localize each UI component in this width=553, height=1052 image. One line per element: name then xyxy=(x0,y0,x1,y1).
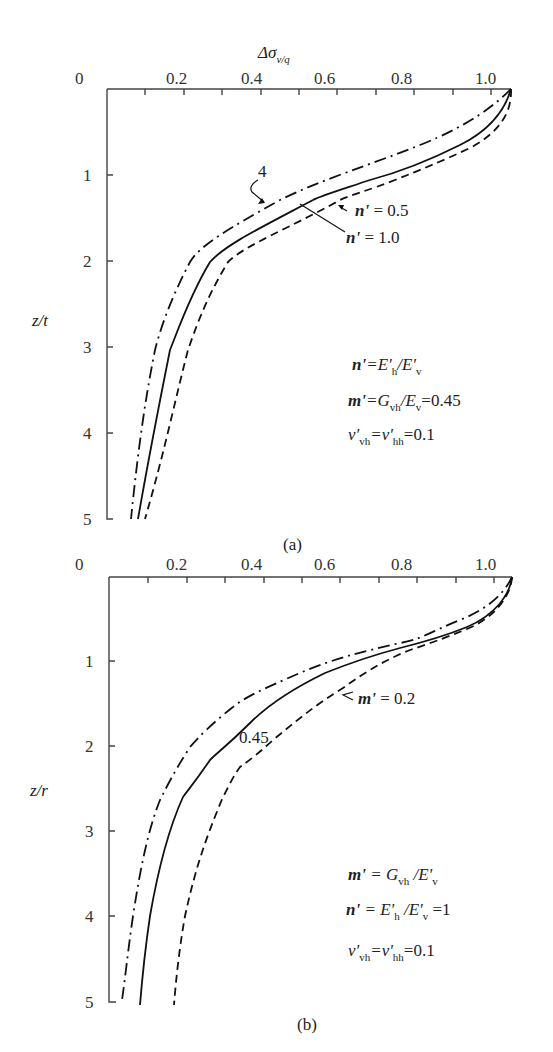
axes-b xyxy=(109,577,512,1002)
y-tick-2: 2 xyxy=(85,737,94,756)
x-tick-0.8: 0.8 xyxy=(391,69,412,88)
panel-a: Δσv/q 0 0.2 0.4 0.6 0.8 1.0 1 2 3 4 5 z/… xyxy=(31,43,511,554)
label-curve-4: 4 xyxy=(258,162,267,181)
y-tick-2: 2 xyxy=(83,252,92,271)
curve-m1 xyxy=(174,577,512,1005)
y-tick-5: 5 xyxy=(85,993,94,1012)
figure: Δσv/q 0 0.2 0.4 0.6 0.8 1.0 1 2 3 4 5 z/… xyxy=(0,0,553,1052)
param-nu-def-b: ν'vh=ν'hh=0.1 xyxy=(348,941,435,963)
x-axis-title-a: Δσv/q xyxy=(257,43,290,65)
y-tick-4: 4 xyxy=(85,907,94,926)
x-tick-labels-a: 0 0.2 0.4 0.6 0.8 1.0 xyxy=(75,69,496,88)
param-m-def-b: m' = Gvh /E'v xyxy=(348,865,438,887)
x-tick-0.6: 0.6 xyxy=(314,69,335,88)
x-tick-0.8: 0.8 xyxy=(391,555,412,574)
label-m02: m' = 0.2 xyxy=(358,689,415,708)
x-tick-1.0: 1.0 xyxy=(475,69,496,88)
panel-b: 0 0.2 0.4 0.6 0.8 1.0 1 2 3 4 5 z/r m' =… xyxy=(29,555,512,1034)
caption-a: (a) xyxy=(283,535,302,554)
param-n-def-b: n' = E'h /E'v =1 xyxy=(346,900,451,922)
x-tick-0.6: 0.6 xyxy=(314,555,335,574)
x-tick-1.0: 1.0 xyxy=(475,555,496,574)
arrow-head-4 xyxy=(258,198,265,204)
x-tick-0.2: 0.2 xyxy=(166,69,187,88)
axes-a xyxy=(107,89,511,519)
ticks-b xyxy=(109,577,494,916)
curve-m02 xyxy=(122,577,512,1000)
x-tick-0.4: 0.4 xyxy=(241,555,263,574)
y-tick-5: 5 xyxy=(83,510,92,529)
x-tick-0.4: 0.4 xyxy=(241,69,263,88)
caption-b: (b) xyxy=(297,1015,317,1034)
arrow-m02 xyxy=(343,692,353,700)
y-tick-3: 3 xyxy=(85,822,94,841)
y-tick-4: 4 xyxy=(83,424,92,443)
y-tick-3: 3 xyxy=(83,338,92,357)
x-tick-0: 0 xyxy=(75,69,84,88)
param-m-def: m'=Gvh/Ev=0.45 xyxy=(348,391,461,413)
y-tick-1: 1 xyxy=(85,652,94,671)
x-tick-0.2: 0.2 xyxy=(166,555,187,574)
x-tick-0: 0 xyxy=(75,555,84,574)
x-tick-labels-b: 0 0.2 0.4 0.6 0.8 1.0 xyxy=(75,555,496,574)
label-n05: n' = 0.5 xyxy=(355,201,409,220)
y-tick-1: 1 xyxy=(83,166,92,185)
curve-n1 xyxy=(138,89,511,519)
label-m045: 0.45 xyxy=(239,728,269,747)
label-n10: n' = 1.0 xyxy=(346,228,400,247)
y-tick-labels-a: 1 2 3 4 5 xyxy=(83,166,92,529)
curve-n05 xyxy=(145,89,511,519)
param-n-def: n'=E'h/E'v xyxy=(352,355,422,377)
y-axis-title-a: z/t xyxy=(31,311,49,330)
curve-m045 xyxy=(140,577,512,1005)
y-axis-title-b: z/r xyxy=(29,781,48,800)
param-nu-def: ν'vh=ν'hh=0.1 xyxy=(348,425,435,447)
y-tick-labels-b: 1 2 3 4 5 xyxy=(85,652,94,1012)
